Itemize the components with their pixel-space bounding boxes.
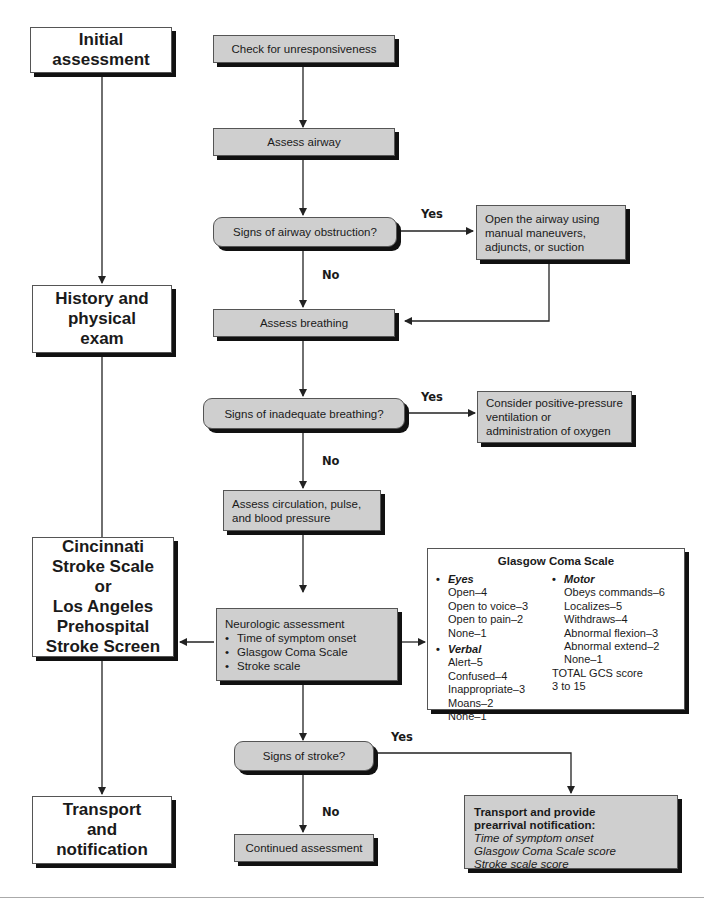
- gcs-eyes-item: None–1: [436, 627, 528, 640]
- open-airway-line-3: adjuncts, or suction: [485, 240, 625, 254]
- transport-item: Time of symptom onset: [474, 832, 677, 845]
- gcs-title: Glasgow Coma Scale: [428, 555, 684, 567]
- step-assess-circulation: Assess circulation, pulse, and blood pre…: [223, 490, 381, 531]
- label-yes-stroke: Yes: [391, 730, 413, 744]
- gcs-reference-box: Glasgow Coma Scale •Eyes Open–4 Open to …: [427, 548, 685, 710]
- neuro-item: •Stroke scale: [225, 659, 397, 673]
- assess-circulation-line-2: and blood pressure: [232, 511, 380, 525]
- step-neurologic-assessment: Neurologic assessment •Time of symptom o…: [216, 608, 398, 681]
- consider-ppv-line-1: Consider positive-pressure: [486, 396, 631, 410]
- gcs-motor-column: •Motor Obeys commands–6 Localizes–5 With…: [552, 573, 665, 694]
- consider-ppv-line-3: administration of oxygen: [486, 424, 631, 438]
- label-no-stroke: No: [322, 805, 340, 819]
- neuro-item: •Glasgow Coma Scale: [225, 645, 397, 659]
- gcs-motor-item: Withdraws–4: [552, 613, 665, 626]
- transport-item: Stroke scale score: [474, 858, 677, 871]
- gcs-verbal-heading: •Verbal: [436, 643, 528, 656]
- gcs-eyes-verbal-column: •Eyes Open–4 Open to voice–3 Open to pai…: [436, 573, 528, 723]
- gcs-total-range: 3 to 15: [552, 680, 665, 693]
- phase-initial-assessment: Initial assessment: [30, 27, 172, 73]
- label-yes-breathing: Yes: [421, 390, 443, 404]
- step-check-unresponsiveness: Check for unresponsiveness: [213, 35, 395, 63]
- phase-stroke-scale: Cincinnati Stroke Scale or Los Angeles P…: [32, 537, 174, 657]
- neuro-title: Neurologic assessment: [225, 617, 397, 631]
- transport-item: Glasgow Coma Scale score: [474, 845, 677, 858]
- gcs-motor-item: Obeys commands–6: [552, 586, 665, 599]
- step-open-airway: Open the airway using manual maneuvers, …: [476, 205, 626, 260]
- label-yes-airway: Yes: [421, 207, 443, 221]
- open-airway-line-1: Open the airway using: [485, 212, 625, 226]
- gcs-motor-item: Abnormal flexion–3: [552, 627, 665, 640]
- gcs-verbal-item: Moans–2: [436, 697, 528, 710]
- gcs-eyes-item: Open to voice–3: [436, 600, 528, 613]
- step-continued-assessment: Continued assessment: [234, 834, 374, 862]
- step-transport-prearrival-notification: Transport and provide prearrival notific…: [464, 795, 678, 869]
- decision-signs-of-stroke: Signs of stroke?: [234, 741, 374, 771]
- gcs-verbal-item: Alert–5: [436, 656, 528, 669]
- gcs-verbal-item: Inappropriate–3: [436, 683, 528, 696]
- gcs-verbal-item: None–1: [436, 710, 528, 723]
- transport-title-line-1: Transport and provide: [474, 806, 677, 819]
- step-consider-ppv: Consider positive-pressure ventilation o…: [477, 391, 632, 443]
- bottom-divider: [0, 897, 704, 898]
- gcs-total-label: TOTAL GCS score: [552, 667, 665, 680]
- step-assess-airway: Assess airway: [213, 128, 395, 156]
- gcs-motor-item: None–1: [552, 653, 665, 666]
- phase-history-physical-exam: History and physical exam: [32, 285, 172, 353]
- gcs-motor-item: Localizes–5: [552, 600, 665, 613]
- phase-transport-notification: Transport and notification: [32, 796, 172, 864]
- label-no-breathing: No: [322, 454, 340, 468]
- gcs-eyes-heading: •Eyes: [436, 573, 528, 586]
- step-assess-breathing: Assess breathing: [213, 309, 395, 337]
- assess-circulation-line-1: Assess circulation, pulse,: [232, 497, 380, 511]
- gcs-eyes-item: Open–4: [436, 586, 528, 599]
- gcs-eyes-item: Open to pain–2: [436, 613, 528, 626]
- transport-title-line-2: prearrival notification:: [474, 819, 677, 832]
- gcs-motor-heading: •Motor: [552, 573, 665, 586]
- open-airway-line-2: manual maneuvers,: [485, 226, 625, 240]
- label-no-airway: No: [322, 268, 340, 282]
- neuro-item: •Time of symptom onset: [225, 631, 397, 645]
- consider-ppv-line-2: ventilation or: [486, 410, 631, 424]
- gcs-motor-item: Abnormal extend–2: [552, 640, 665, 653]
- decision-airway-obstruction: Signs of airway obstruction?: [213, 217, 397, 247]
- gcs-verbal-item: Confused–4: [436, 670, 528, 683]
- decision-inadequate-breathing: Signs of inadequate breathing?: [203, 398, 405, 429]
